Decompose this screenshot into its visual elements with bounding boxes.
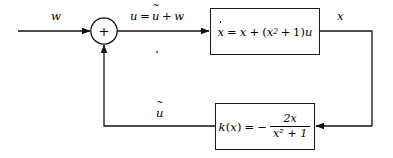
plant-equals: = xyxy=(227,25,237,39)
controller-fraction: 2x x² + 1 xyxy=(270,113,310,139)
plant-linear-term: x xyxy=(240,25,247,39)
sum-label-equals: = xyxy=(140,9,150,23)
x-dot-symbol: x xyxy=(217,25,224,39)
feedback-u-tilde-glyph: u xyxy=(156,106,163,120)
controller-close-paren: ) xyxy=(237,120,242,134)
controller-minus: − xyxy=(257,120,267,134)
plant-plus: + xyxy=(249,25,259,39)
controller-numerator: 2x xyxy=(280,113,299,125)
plant-quadratic-exponent: 2 xyxy=(273,27,278,36)
sum-label-u-tilde: u xyxy=(152,9,159,23)
controller-equals: = xyxy=(244,120,254,134)
sum-label-plus: + xyxy=(162,9,172,23)
stray-dot-artifact xyxy=(156,51,158,53)
diagram-wires xyxy=(0,0,393,158)
summing-junction-plus-sign: + xyxy=(99,25,110,38)
plant-inner-constant: 1 xyxy=(293,25,300,39)
controller-equation: k ( x ) = − 2x x² + 1 xyxy=(219,113,312,139)
sum-label-w: w xyxy=(174,9,184,23)
plant-block: x = x + ( x 2 + 1 ) u xyxy=(210,8,320,55)
signal-label-w: w xyxy=(51,9,61,23)
controller-argument: x xyxy=(230,120,237,134)
sum-label-u: u xyxy=(130,9,137,23)
wire-plant-output-x xyxy=(320,31,372,126)
controller-function-name: k xyxy=(219,120,226,134)
signal-label-u-tilde: u xyxy=(156,106,163,120)
plant-inner-plus: + xyxy=(281,25,291,39)
control-block-diagram: + x = x + ( x 2 + 1 ) u k ( x ) = − 2x x… xyxy=(0,0,393,158)
controller-block: k ( x ) = − 2x x² + 1 xyxy=(215,103,315,150)
signal-label-sum-output: u=u+w xyxy=(130,9,184,23)
plant-equation: x = x + ( x 2 + 1 ) u xyxy=(217,25,312,39)
plant-control-var: u xyxy=(305,25,313,39)
signal-label-x: x xyxy=(337,9,344,23)
controller-denominator: x² + 1 xyxy=(270,126,310,140)
